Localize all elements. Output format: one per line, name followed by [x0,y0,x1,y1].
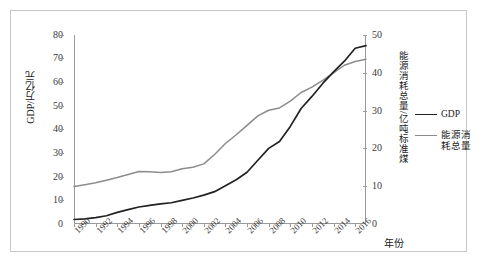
series-line-gdp [74,46,366,220]
left-tickmark [60,153,64,154]
right-axis-tick-50: 50 [372,30,398,40]
legend-swatch-energy [415,135,437,136]
legend-label-energy-line1: 能源消 [441,130,471,140]
legend-label-energy: 能源消 耗总量 [441,130,478,152]
chart-figure: GDP/万亿元 能源消耗总量/亿吨标准煤 年份 80 70 60 50 40 3… [10,10,467,252]
right-axis-tick-10: 10 [372,181,398,191]
legend-item-energy: 能源消 耗总量 [415,130,477,142]
left-tickmark [60,106,64,107]
series-line-energy [74,59,366,186]
left-tickmark [60,82,64,83]
legend-swatch-gdp [415,114,437,115]
legend-label-gdp: GDP [441,109,478,120]
right-axis-tick-20: 20 [372,143,398,153]
right-axis-tick-0: 0 [372,219,398,229]
chart-legend: GDP 能源消 耗总量 [415,109,477,151]
left-tickmark [60,35,64,36]
legend-item-gdp: GDP [415,109,477,121]
right-axis-tick-30: 30 [372,106,398,116]
left-axis-tick-0: 0 [37,219,63,229]
left-tickmark [60,177,64,178]
left-tickmark [60,129,64,130]
series-lines [74,35,366,224]
left-tickmark [60,58,64,59]
x-axis-title: 年份 [384,235,404,250]
plot-area [74,35,366,224]
left-tickmark [60,200,64,201]
right-axis-tick-40: 40 [372,68,398,78]
legend-label-energy-line2: 耗总量 [441,141,471,151]
